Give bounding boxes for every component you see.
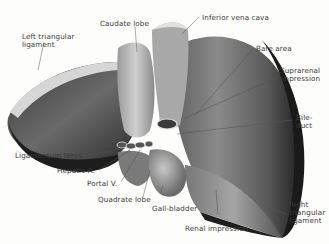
label-left-triangular-line2: ligament xyxy=(22,41,75,49)
label-gall-bladder: Gall-bladder xyxy=(152,205,197,213)
label-caudate-lobe: Caudate lobe xyxy=(100,20,149,28)
label-suprarenal-line2: impression xyxy=(280,75,320,83)
porta-hepatis-vessels xyxy=(117,141,153,149)
label-bare-area: Bare area xyxy=(256,45,292,53)
caudate-lobe xyxy=(117,42,154,137)
label-bile-line2: duct xyxy=(296,122,312,130)
label-suprarenal-impression: Suprarenal impression xyxy=(280,67,320,83)
label-right-tri-line3: ligament xyxy=(289,217,325,225)
label-inferior-vena-cava: Inferior vena cava xyxy=(202,14,269,22)
label-left-triangular-ligament: Left triangular ligament xyxy=(22,33,75,49)
label-hepatic-artery: Hepatic A. xyxy=(57,167,95,175)
liver-illustration: Left triangular ligament Caudate lobe In… xyxy=(0,0,329,244)
bile-duct-section xyxy=(157,119,177,129)
label-portal-vein: Portal V. xyxy=(87,180,117,188)
label-renal-impression: Renal impression xyxy=(185,225,248,233)
label-ligamentum-teres: Ligamentum teres xyxy=(15,152,82,160)
gall-bladder xyxy=(148,149,186,196)
label-quadrate-lobe: Quadrate lobe xyxy=(98,196,151,204)
label-right-triangular-ligament: Right triangular ligament xyxy=(289,201,325,225)
label-bile-duct: Bile- duct xyxy=(296,114,312,130)
